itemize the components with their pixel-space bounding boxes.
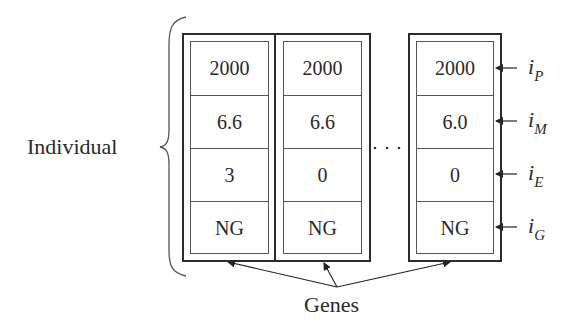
gene-column-n: 2000 6.0 0 NG (416, 41, 494, 254)
gene-1-value-m: 6.6 (191, 95, 268, 149)
gene-n-value-m: 6.0 (417, 95, 493, 149)
gene-column-1: 2000 6.6 3 NG (190, 41, 269, 254)
gene-column-2: 2000 6.6 0 NG (283, 41, 362, 254)
gene-divider (274, 33, 277, 262)
component-label-g: iG (528, 213, 545, 242)
individual-label: Individual (27, 134, 117, 160)
component-label-e: iE (528, 160, 543, 189)
gene-2-value-m: 6.6 (284, 95, 361, 149)
gene-n-value-p: 2000 (417, 42, 493, 95)
gene-n-value-g: NG (417, 201, 493, 255)
gene-2-value-g: NG (284, 201, 361, 255)
component-label-p: iP (528, 54, 543, 83)
component-label-m: iM (528, 107, 547, 136)
gene-1-value-p: 2000 (191, 42, 268, 95)
gene-1-value-e: 3 (191, 148, 268, 202)
gene-1-value-g: NG (191, 201, 268, 255)
genes-label: Genes (304, 292, 359, 318)
gene-2-value-p: 2000 (284, 42, 361, 95)
gene-2-value-e: 0 (284, 148, 361, 202)
gene-n-value-e: 0 (417, 148, 493, 202)
